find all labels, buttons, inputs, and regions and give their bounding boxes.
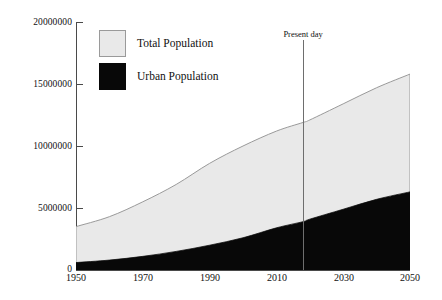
y-axis-label-text: 5000000 [38,203,72,213]
plot-area [76,22,410,270]
x-axis-label-1950: 1950 [56,272,96,283]
x-axis-line [76,270,410,271]
x-axis-label-2050: 2050 [390,272,430,283]
y-axis-label-text: 15000000 [33,79,72,89]
present-day-line [303,40,304,270]
x-axis-label-1970: 1970 [123,272,163,283]
present-day-label: Present day [253,29,353,39]
total-population-swatch [99,30,126,57]
stacked-area-svg [76,22,410,270]
urban-population-swatch [99,63,126,90]
population-area-chart: 20000000 15000000 10000000 5000000 0 Pre… [0,0,442,300]
x-axis-label-1990: 1990 [190,272,230,283]
x-axis-label-2030: 2030 [324,272,364,283]
x-axis-label-2010: 2010 [257,272,297,283]
legend-label-total-population: Total Population [137,37,213,50]
y-axis-label-text: 10000000 [33,141,72,151]
y-axis-label-text: 20000000 [33,17,72,27]
legend-label-urban-population: Urban Population [137,70,218,83]
